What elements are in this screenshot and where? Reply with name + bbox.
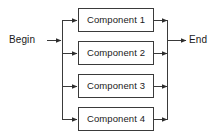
diagram-canvas: Begin End Component 1 Component 2 Compon… <box>0 0 217 138</box>
component-box-3-label: Component 3 <box>87 81 145 91</box>
component-box-4[interactable]: Component 4 <box>78 107 154 131</box>
component-box-4-label: Component 4 <box>87 114 145 124</box>
component-box-2[interactable]: Component 2 <box>78 41 154 65</box>
begin-label: Begin <box>9 35 35 45</box>
component-box-1[interactable]: Component 1 <box>78 8 154 32</box>
component-box-2-label: Component 2 <box>87 48 145 58</box>
component-box-3[interactable]: Component 3 <box>78 74 154 98</box>
component-box-1-label: Component 1 <box>87 15 145 25</box>
end-label: End <box>189 35 207 45</box>
